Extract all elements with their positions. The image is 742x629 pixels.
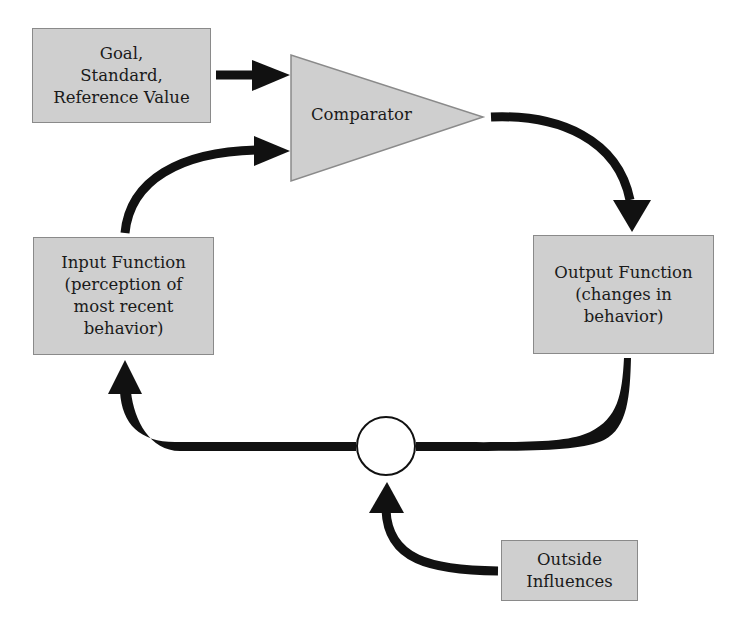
input-label-line-4: behavior) (84, 318, 164, 340)
arrow-junction-to-input (108, 360, 356, 451)
goal-label-line-3: Reference Value (53, 87, 190, 109)
outside-label-line-1: Outside (537, 549, 602, 571)
input-label-line-1: Input Function (61, 252, 186, 274)
goal-label-line-2: Standard, (80, 65, 163, 87)
goal-label-line-1: Goal, (100, 43, 143, 65)
arrow-outside-to-junction (369, 482, 498, 571)
input-label-line-3: most recent (74, 296, 174, 318)
input-label-line-2: (perception of (65, 274, 183, 296)
output-function-box: Output Function (changes in behavior) (533, 235, 714, 354)
outside-label-line-2: Influences (526, 571, 613, 593)
output-label-line-2: (changes in (575, 284, 672, 306)
comparator-label: Comparator (311, 105, 412, 124)
output-label-line-3: behavior) (584, 306, 664, 328)
summing-junction-circle (357, 417, 415, 475)
arrow-input-to-comparator (125, 136, 290, 233)
output-label-line-1: Output Function (554, 262, 692, 284)
arrow-comparator-to-output (491, 117, 651, 232)
arrow-goal-to-comparator (216, 60, 290, 91)
outside-influences-box: Outside Influences (501, 540, 638, 601)
line-output-to-junction (416, 358, 631, 451)
input-function-box: Input Function (perception of most recen… (33, 237, 214, 355)
goal-box: Goal, Standard, Reference Value (32, 28, 211, 123)
